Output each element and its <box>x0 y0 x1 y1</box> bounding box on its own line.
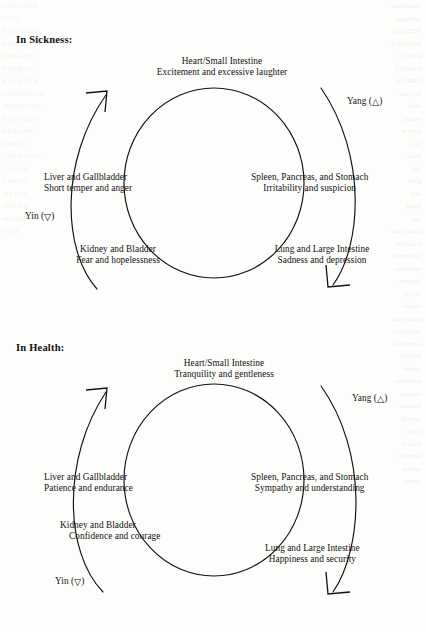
yang-text: Yang ( <box>352 393 377 403</box>
yin-axis-label: Yin (▽) <box>55 576 84 587</box>
yang-descending-arrowhead-icon <box>326 265 350 287</box>
node-organ: Lung and Large Intestine <box>265 543 360 554</box>
yang-text-close: ) <box>384 393 387 403</box>
yang-axis-label: Yang (△) <box>352 393 387 404</box>
diagram-section-sickness: In Sickness: Heart/Small Intestine Excit… <box>0 0 426 320</box>
node-label-right: Spleen, Pancreas, and Stomach Irritabili… <box>251 172 368 195</box>
node-quality: Irritability and suspicion <box>251 183 368 194</box>
node-label-bottom-right: Lung and Large Intestine Sadness and dep… <box>275 244 370 267</box>
sickness-cycle-graphics <box>0 0 426 320</box>
node-quality: Short temper and anger <box>44 183 132 194</box>
yin-text: Yin ( <box>25 211 44 221</box>
node-organ: Heart/Small Intestine <box>174 358 274 369</box>
yin-ascending-arrowhead-icon <box>86 388 107 409</box>
yang-text-close: ) <box>379 96 382 106</box>
node-label-top: Heart/Small Intestine Tranquility and ge… <box>174 358 274 381</box>
node-organ: Liver and Gallbladder <box>44 172 132 183</box>
yang-axis-label: Yang (△) <box>347 96 382 107</box>
node-label-bottom-left: Kidney and Bladder Fear and hopelessness <box>76 244 160 267</box>
node-label-left: Liver and Gallbladder Short temper and a… <box>44 172 132 195</box>
node-quality: Sympathy and understanding <box>251 483 368 494</box>
yin-text-close: ) <box>51 211 54 221</box>
node-quality: Excitement and excessive laughter <box>157 67 287 78</box>
node-quality: Fear and hopelessness <box>76 255 160 266</box>
node-organ: Liver and Gallbladder <box>44 472 133 483</box>
yin-text-close: ) <box>81 576 84 586</box>
node-label-right: Spleen, Pancreas, and Stomach Sympathy a… <box>251 472 368 495</box>
node-label-bottom-right: Lung and Large Intestine Happiness and s… <box>265 543 360 566</box>
node-organ: Spleen, Pancreas, and Stomach <box>251 472 368 483</box>
node-label-top: Heart/Small Intestine Excitement and exc… <box>157 56 287 79</box>
node-organ: Spleen, Pancreas, and Stomach <box>251 172 368 183</box>
node-quality: Patience and endurance <box>44 483 133 494</box>
node-quality: Happiness and security <box>265 554 360 565</box>
node-quality: Confidence and courage <box>60 531 160 542</box>
node-label-bottom-left: Kidney and Bladder Confidence and courag… <box>60 520 160 543</box>
yang-text: Yang ( <box>347 96 372 106</box>
node-label-left: Liver and Gallbladder Patience and endur… <box>44 472 133 495</box>
node-organ: Kidney and Bladder <box>76 244 160 255</box>
yin-axis-label: Yin (▽) <box>25 211 54 222</box>
yin-text: Yin ( <box>55 576 74 586</box>
node-quality: Sadness and depression <box>275 255 370 266</box>
node-organ: Lung and Large Intestine <box>275 244 370 255</box>
node-quality: Tranquility and gentleness <box>174 369 274 380</box>
diagram-section-health: In Health: Heart/Small Intestine Tranqui… <box>0 320 426 632</box>
node-organ: Heart/Small Intestine <box>157 56 287 67</box>
node-organ: Kidney and Bladder <box>60 520 160 531</box>
